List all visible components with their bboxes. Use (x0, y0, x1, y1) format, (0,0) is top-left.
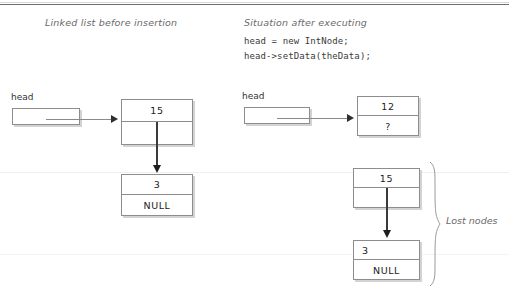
left-head-pointer-line (46, 119, 112, 120)
left-node-2-data: 3 (122, 175, 192, 195)
right-head-arrowhead-icon (347, 114, 354, 122)
left-link-arrowhead-icon (153, 165, 161, 173)
right-link-arrowhead-icon (383, 230, 391, 238)
left-caption: Linked list before insertion (45, 17, 177, 28)
right-new-node-data: 12 (358, 97, 418, 116)
right-lost-node-2: 3 NULL (353, 240, 420, 280)
code-line-1: head = new IntNode; (244, 36, 349, 46)
right-link-line (386, 188, 388, 232)
right-lost-node-2-next: NULL (354, 260, 419, 280)
left-node-2: 3 NULL (121, 174, 193, 216)
right-new-node: 12 ? (357, 96, 419, 136)
figure-canvas: Linked list before insertion Situation a… (0, 0, 509, 299)
page-rule (0, 4, 509, 5)
left-head-label: head (11, 92, 33, 102)
right-new-node-next: ? (358, 116, 418, 136)
left-link-line (156, 122, 158, 167)
left-node-1-data: 15 (122, 100, 192, 122)
right-lost-node-1-data: 15 (354, 169, 419, 188)
right-head-label: head (242, 91, 264, 101)
lost-nodes-brace-icon (426, 160, 442, 288)
left-head-arrowhead-icon (111, 115, 118, 123)
right-lost-node-2-data: 3 (354, 241, 419, 260)
left-head-pointer-box (12, 108, 80, 125)
right-head-pointer-line (277, 118, 348, 119)
lost-nodes-label: Lost nodes (446, 215, 497, 226)
right-head-pointer-box (244, 107, 310, 124)
page-rule-faint (0, 2, 509, 3)
code-line-2: head->setData(theData); (244, 51, 371, 61)
left-node-2-next: NULL (122, 195, 192, 216)
right-caption: Situation after executing (244, 17, 367, 28)
